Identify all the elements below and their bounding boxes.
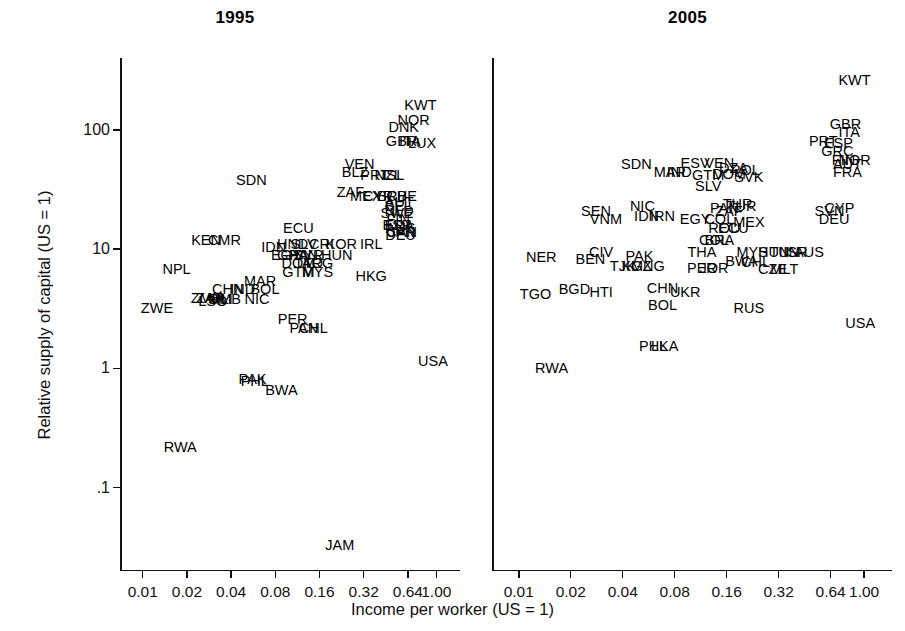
data-point-label: ECU xyxy=(283,221,314,236)
data-point-label: SVK xyxy=(734,170,763,185)
x-tick-label: 0.32 xyxy=(764,583,794,601)
x-tick-mark xyxy=(407,571,409,578)
y-tick-mark xyxy=(113,487,120,489)
data-point-label: USA xyxy=(418,354,448,369)
data-point-label: RWA xyxy=(535,361,568,376)
y-axis-line xyxy=(492,58,494,571)
y-tick-label: 1 xyxy=(101,359,110,377)
x-axis-line xyxy=(492,570,892,572)
data-point-label: BGD xyxy=(559,282,590,297)
data-point-label: MYS xyxy=(302,265,333,280)
data-point-label: CMR xyxy=(208,232,241,247)
x-axis-line xyxy=(120,570,460,572)
x-tick-mark xyxy=(275,571,277,578)
data-point-label: TGO xyxy=(520,287,551,302)
data-point-label: RWA xyxy=(164,440,197,455)
data-point-label: CHL xyxy=(299,320,328,335)
data-point-label: NIC xyxy=(244,292,269,307)
y-tick-label: .1 xyxy=(97,479,110,497)
data-point-label: HTI xyxy=(589,284,612,299)
data-point-label: FRA xyxy=(833,165,862,180)
x-tick-mark xyxy=(518,571,520,578)
x-tick-label: 0.01 xyxy=(128,583,158,601)
x-tick-label: 0.08 xyxy=(660,583,690,601)
x-tick-label: 0.01 xyxy=(504,583,534,601)
x-tick-label: 0.16 xyxy=(712,583,742,601)
data-point-label: BWA xyxy=(265,383,298,398)
data-point-label: IND xyxy=(667,165,692,180)
y-tick-mark xyxy=(113,248,120,250)
x-tick-mark xyxy=(319,571,321,578)
data-point-label: DEU xyxy=(385,228,416,243)
x-tick-label: 0.02 xyxy=(172,583,202,601)
panel-2005: 2005 0.010.020.040.080.160.320.641.00 KW… xyxy=(470,0,905,631)
data-point-label: BEN xyxy=(575,252,605,267)
data-point-label: ZWE xyxy=(141,301,173,316)
y-tick-mark xyxy=(113,368,120,370)
x-tick-mark xyxy=(726,571,728,578)
data-point-label: DEU xyxy=(819,211,850,226)
x-tick-label: 1.00 xyxy=(421,583,451,601)
data-point-label: NPL xyxy=(162,262,190,277)
y-tick-label: 100 xyxy=(83,121,110,139)
panel-1995: 1995 Relative supply of capital (US = 1)… xyxy=(0,0,470,631)
y-axis-label: Relative supply of capital (US = 1) xyxy=(35,190,54,439)
x-tick-mark xyxy=(570,571,572,578)
data-point-label: IRN xyxy=(650,209,675,224)
x-tick-label: 0.04 xyxy=(216,583,246,601)
x-tick-label: 0.32 xyxy=(349,583,379,601)
data-point-label: MLT xyxy=(770,262,798,277)
data-point-label: HKG xyxy=(355,268,386,283)
x-tick-mark xyxy=(622,571,624,578)
data-point-label: IRL xyxy=(360,237,383,252)
data-point-label: JOR xyxy=(699,260,728,275)
data-point-label: LUX xyxy=(408,135,436,150)
y-tick-label: 10 xyxy=(92,240,110,258)
x-axis-label: Income per worker (US = 1) xyxy=(0,600,905,619)
x-tick-label: 0.16 xyxy=(304,583,334,601)
x-tick-label: 0.04 xyxy=(608,583,638,601)
data-point-label: KWT xyxy=(838,73,870,88)
data-point-label: GMB xyxy=(208,292,241,307)
panel-title-1995: 1995 xyxy=(0,8,470,28)
x-tick-mark xyxy=(142,571,144,578)
plot-area-2005: 0.010.020.040.080.160.320.641.00 KWTGBRI… xyxy=(492,58,892,571)
data-point-label: NER xyxy=(526,250,557,265)
x-tick-mark xyxy=(778,571,780,578)
data-point-label: BOL xyxy=(648,298,677,313)
x-tick-mark xyxy=(230,571,232,578)
data-point-label: USA xyxy=(845,316,875,331)
y-axis-line xyxy=(120,58,122,571)
data-point-label: THA xyxy=(687,244,716,259)
data-point-label: KWT xyxy=(404,98,436,113)
x-tick-mark xyxy=(830,571,832,578)
data-point-label: JAM xyxy=(325,538,354,553)
x-tick-mark xyxy=(436,571,438,578)
x-tick-label: 0.64 xyxy=(393,583,423,601)
panel-title-2005: 2005 xyxy=(470,8,905,28)
data-point-label: MNG xyxy=(631,259,665,274)
data-point-label: VNM xyxy=(590,211,622,226)
data-point-label: SDN xyxy=(621,156,652,171)
y-axis-label-holder: Relative supply of capital (US = 1) xyxy=(58,58,59,571)
y-tick-mark xyxy=(113,129,120,131)
x-tick-label: 0.08 xyxy=(260,583,290,601)
figure-root: 1995 Relative supply of capital (US = 1)… xyxy=(0,0,905,631)
data-point-label: AUS xyxy=(794,244,824,259)
data-point-label: LKA xyxy=(651,338,678,353)
x-tick-label: 0.64 xyxy=(816,583,846,601)
x-tick-mark xyxy=(863,571,865,578)
data-point-label: SDN xyxy=(236,173,267,188)
x-tick-mark xyxy=(674,571,676,578)
plot-area-1995: 100101.1 0.010.020.040.080.160.320.641.0… xyxy=(120,58,460,571)
data-point-label: SLV xyxy=(695,178,721,193)
x-tick-label: 0.02 xyxy=(556,583,586,601)
data-point-label: ISL xyxy=(382,167,404,182)
data-point-label: RUS xyxy=(734,301,765,316)
x-tick-mark xyxy=(186,571,188,578)
x-tick-label: 1.00 xyxy=(849,583,879,601)
x-tick-mark xyxy=(363,571,365,578)
